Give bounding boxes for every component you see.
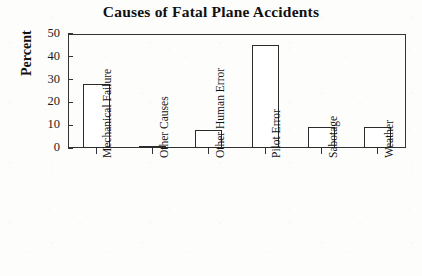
x-category-label: Mechanical Failure (101, 69, 113, 158)
y-tick-label: 0 (34, 140, 60, 155)
x-tick-mark (96, 148, 97, 154)
chart-figure: Causes of Fatal Plane Accidents Percent … (0, 0, 422, 276)
y-tick-mark (68, 125, 73, 126)
x-category-label: Sabotage (327, 116, 339, 158)
y-tick-mark (68, 56, 73, 57)
x-tick-mark (321, 148, 322, 154)
y-tick-label: 30 (34, 72, 60, 87)
chart-title: Causes of Fatal Plane Accidents (0, 3, 422, 21)
y-tick-label: 10 (34, 117, 60, 132)
plot-area (68, 34, 406, 148)
x-category-label: Other Human Error (214, 68, 226, 158)
y-tick-mark (68, 102, 73, 103)
x-tick-mark (377, 148, 378, 154)
y-tick-mark (68, 147, 73, 148)
x-category-label: Pilot Error (270, 109, 282, 158)
x-tick-mark (152, 148, 153, 154)
y-tick-mark (68, 33, 73, 34)
x-category-label: Other Causes (158, 96, 170, 158)
x-tick-mark (265, 148, 266, 154)
y-tick-mark (68, 79, 73, 80)
x-category-label: Weather (383, 120, 395, 158)
y-tick-label: 20 (34, 94, 60, 109)
x-tick-mark (208, 148, 209, 154)
y-tick-label: 50 (34, 26, 60, 41)
y-tick-label: 40 (34, 49, 60, 64)
